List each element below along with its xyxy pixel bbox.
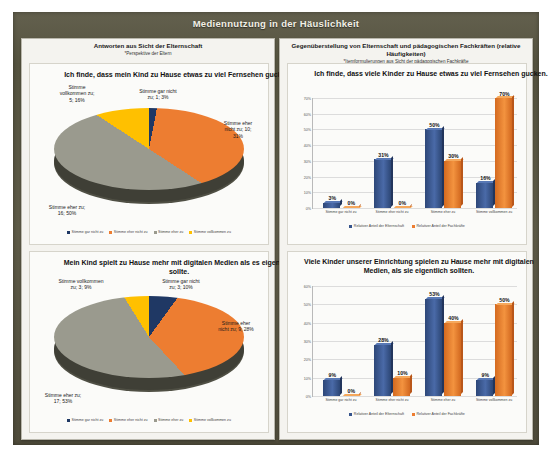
pie-tv-parents-label-eher-zu: Stimme eher zu; 16; 50% [34, 204, 100, 217]
bar-professionals: 30% [444, 161, 461, 208]
plot-area: 0% 10% 20% 30% 40% 50% 60% 9% [312, 286, 517, 397]
gridline: 70% [313, 98, 517, 99]
gridline: 40% [313, 323, 517, 324]
bar-professionals: 50% [495, 304, 512, 396]
x-axis-label: Stimme gar nicht zu [313, 210, 369, 214]
pie-digital-parents-label-gar-nicht: Stimme gar nicht zu; 3; 10% [148, 278, 214, 291]
bar-digital-compare-legend: Relativer Anteil der ElternschaftRelativ… [288, 412, 526, 416]
pie-digital-parents-label-vollkommen: Stimme vollkommen zu; 3; 9% [44, 278, 118, 291]
pie-tv-parents-label-vollkommen: Stimme vollkommen zu; 5; 16% [46, 84, 108, 103]
x-axis-label: Stimme eher nicht zu [364, 210, 420, 214]
pie-tv-parents-label-eher-nicht: Stimme eher nicht zu; 10; 31% [212, 120, 264, 139]
pie-digital-parents-legend: Stimme gar nicht zuStimme eher nicht zuS… [30, 418, 268, 422]
gridline: 40% [313, 145, 517, 146]
bar-parents: 16% [476, 183, 493, 208]
legend-item: Stimme vollkommen zu [189, 230, 231, 234]
legend-item: Stimme gar nicht zu [67, 230, 103, 234]
panel-comparison: Gegenüberstellung von Elternschaft und p… [279, 38, 533, 440]
legend-item: Stimme eher nicht zu [109, 230, 147, 234]
legend-item: Relativer Anteil der Elternschaft [349, 224, 404, 228]
x-axis-label: Stimme eher zu [415, 398, 471, 402]
pie-digital-parents-label-eher-zu: Stimme eher zu; 17; 53% [32, 392, 94, 405]
bar-parents: 9% [476, 380, 493, 397]
pie-digital-parents-graphic [54, 296, 244, 392]
gridline: 50% [313, 129, 517, 130]
chart-card-pie-tv-parents: Ich finde, dass mein Kind zu Hause etwas… [29, 63, 269, 245]
bar-parents: 28% [374, 345, 391, 396]
poster-title: Mediennutzung in der Häuslichkeit [13, 18, 539, 29]
chart-card-pie-digital-parents: Mein Kind spielt zu Hause mehr mit digit… [29, 251, 269, 433]
pie-tv-parents-legend: Stimme gar nicht zuStimme eher nicht zuS… [30, 230, 268, 234]
x-axis-label: Stimme vollkommen zu [466, 398, 522, 402]
gridline: 60% [313, 114, 517, 115]
legend-item: Relativer Anteil der Elternschaft [349, 412, 404, 416]
panel-parents: Antworten aus Sicht der Elternschaft *Pe… [21, 38, 275, 440]
bar-professionals: 40% [444, 323, 461, 396]
gridline: 60% [313, 286, 517, 287]
gridline: 0% [313, 396, 517, 397]
legend-item: Relativer Anteil der Fachkräfte [412, 224, 465, 228]
x-axis-label: Stimme gar nicht zu [313, 398, 369, 402]
panel-comparison-heading: Gegenüberstellung von Elternschaft und p… [280, 42, 532, 58]
pie-digital-parents-label-eher-nicht: Stimme eher nicht zu; 9; 28% [208, 320, 264, 333]
panel-parents-header: Antworten aus Sicht der Elternschaft *Pe… [22, 39, 274, 57]
bar-digital-compare-plot: 0% 10% 20% 30% 40% 50% 60% 9% [288, 252, 526, 432]
x-axis-label: Stimme eher nicht zu [364, 398, 420, 402]
poster-board: Mediennutzung in der Häuslichkeit Antwor… [13, 12, 539, 445]
plot-area: 0% 10% 20% 30% 40% 50% 60% 70% 3% [312, 98, 517, 209]
pie-tv-parents-label-gar-nicht: Stimme gar nicht zu; 1; 3% [125, 88, 191, 101]
gridline: 30% [313, 161, 517, 162]
gridline: 30% [313, 341, 517, 342]
legend-item: Stimme gar nicht zu [67, 418, 103, 422]
bar-parents: 3% [323, 203, 340, 208]
chart-card-bar-tv-compare: Ich finde, dass viele Kinder zu Hause et… [287, 63, 527, 245]
legend-item: Stimme eher nicht zu [109, 418, 147, 422]
panel-parents-subheading: *Perspektive der Eltern [22, 50, 274, 57]
panel-parents-heading: Antworten aus Sicht der Elternschaft [22, 42, 274, 50]
bar-parents: 53% [425, 299, 442, 396]
gridline: 0% [313, 208, 517, 209]
legend-item: Relativer Anteil der Fachkräfte [412, 412, 465, 416]
bar-tv-compare-plot: 0% 10% 20% 30% 40% 50% 60% 70% 3% [288, 64, 526, 244]
x-axis-label: Stimme vollkommen zu [466, 210, 522, 214]
legend-item: Stimme eher zu [154, 230, 184, 234]
bar-parents: 9% [323, 380, 340, 397]
legend-item: Stimme vollkommen zu [189, 418, 231, 422]
bar-parents: 50% [425, 129, 442, 208]
chart-card-bar-digital-compare: Viele Kinder unserer Einrichtung spielen… [287, 251, 527, 433]
gridline: 50% [313, 304, 517, 305]
bar-parents: 31% [374, 159, 391, 208]
bar-professionals: 10% [393, 378, 410, 396]
legend-item: Stimme eher zu [154, 418, 184, 422]
bar-tv-compare-legend: Relativer Anteil der ElternschaftRelativ… [288, 224, 526, 228]
bar-professionals: 70% [495, 98, 512, 208]
x-axis-label: Stimme eher zu [415, 210, 471, 214]
gridline: 20% [313, 359, 517, 360]
panel-comparison-header: Gegenüberstellung von Elternschaft und p… [280, 39, 532, 65]
pie-tv-parents-title: Ich finde, dass mein Kind zu Hause etwas… [30, 70, 320, 79]
